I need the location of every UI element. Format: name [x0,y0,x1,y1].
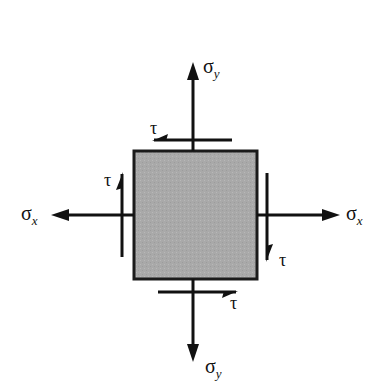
sigma-x-right-arrow [257,209,340,221]
sigma-y-top-arrow [187,62,199,151]
tau-right-arrow [266,173,273,262]
sigma-y-bottom-label: σy [205,355,222,381]
stress-element-diagram: σy σy σx σx τ τ τ τ [0,0,382,391]
sigma-x-left-label: σx [21,202,38,228]
tau-left-label: τ [104,170,111,190]
sigma-y-top-label: σy [203,55,220,81]
tau-top-label: τ [150,118,157,138]
tau-right-label: τ [279,250,286,270]
tau-bottom-label: τ [230,293,237,313]
stress-element-square [134,151,257,279]
sigma-x-right-label: σx [346,202,363,228]
tau-bottom-arrow [158,291,238,298]
